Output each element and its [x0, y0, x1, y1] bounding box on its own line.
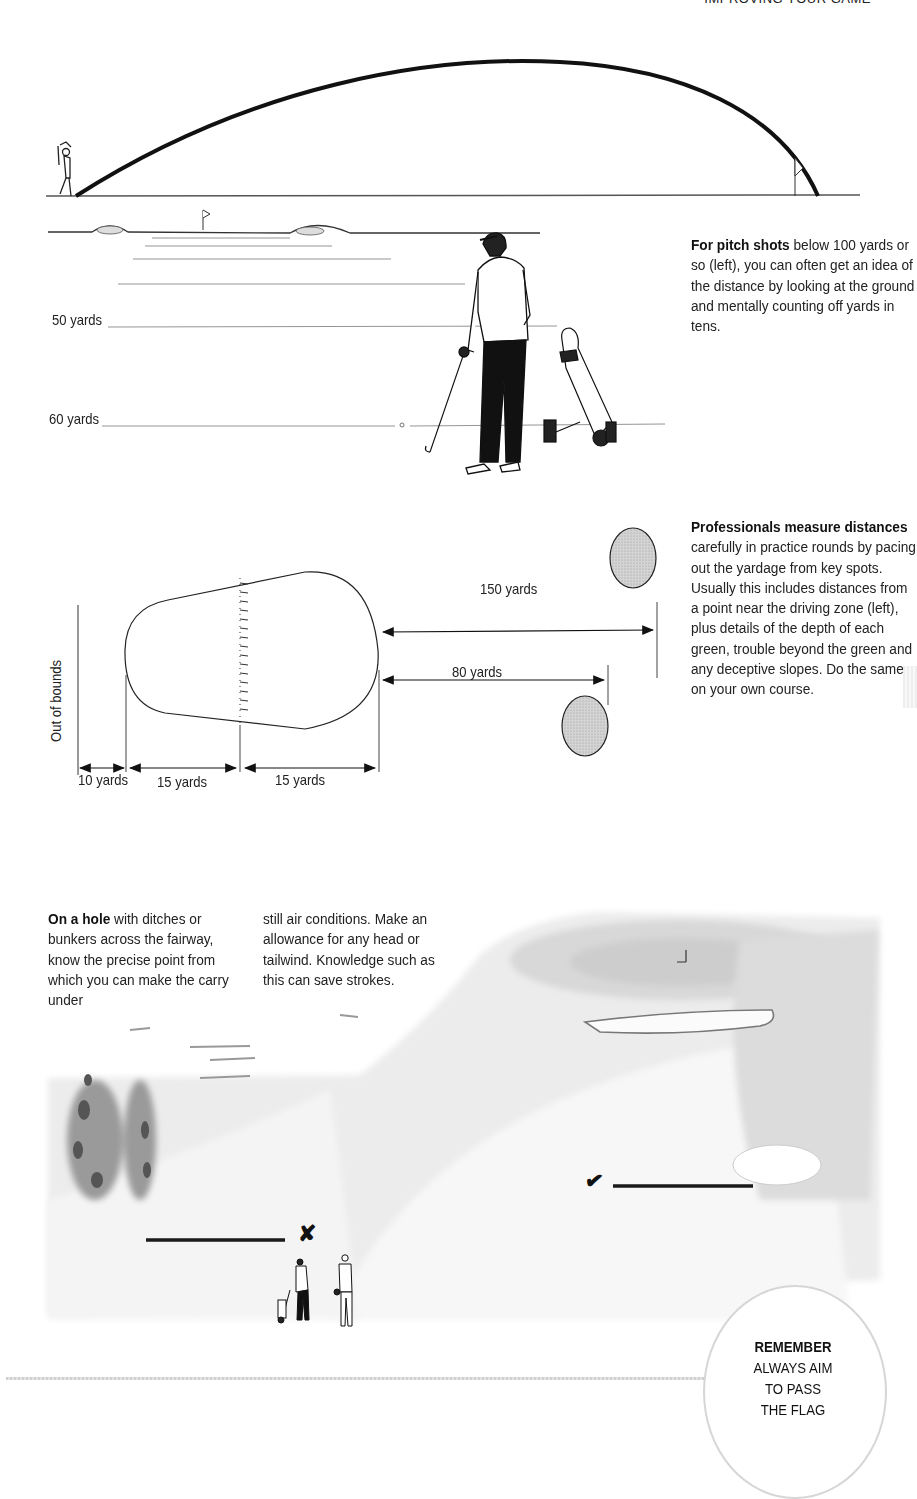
label-60-yards: 60 yards [49, 411, 99, 427]
cross-icon: ✘ [298, 1221, 316, 1247]
page-edge-tab [903, 666, 917, 708]
label-out-of-bounds: Out of bounds [48, 660, 64, 742]
label-80-yards: 80 yards [452, 664, 502, 680]
far-green-shape [610, 528, 656, 588]
remember-line-1: ALWAYS AIM [714, 1357, 872, 1378]
golfer-icon [426, 233, 531, 474]
check-icon: ✔ [583, 1167, 604, 1195]
caption-pitch-shots-lead: For pitch shots [691, 236, 790, 253]
bottom-rule [6, 1377, 706, 1380]
caption-hole-col1: On a hole with ditches or bunkers across… [48, 909, 237, 1010]
caption-pitch-shots: For pitch shots below 100 yards or so (l… [691, 235, 916, 336]
remember-title: REMEMBER [714, 1336, 872, 1357]
bushes-icon [67, 1080, 156, 1200]
caption-professionals-lead: Professionals measure distances [691, 518, 908, 535]
label-15-yards-front: 15 yards [157, 774, 207, 790]
remember-line-2: TO PASS [714, 1378, 872, 1399]
caption-hole-lead: On a hole [48, 910, 110, 927]
caption-hole-col2: still air conditions. Make an allowance … [263, 909, 439, 990]
caption-professionals: Professionals measure distances carefull… [691, 517, 916, 700]
golfer-small-icon [58, 142, 71, 196]
caption-professionals-body: carefully in practice rounds by pacing o… [691, 538, 916, 697]
golf-trolley-icon [544, 328, 616, 446]
trajectory-figure [0, 0, 917, 210]
remember-line-3: THE FLAG [714, 1399, 872, 1420]
label-15-yards-back: 15 yards [275, 772, 325, 788]
label-150-yards: 150 yards [480, 581, 537, 597]
label-50-yards: 50 yards [52, 312, 102, 328]
remember-text: REMEMBER ALWAYS AIM TO PASS THE FLAG [714, 1336, 872, 1420]
near-green-shape [562, 696, 608, 756]
label-10-yards: 10 yards [78, 772, 128, 788]
trajectory-illustration [0, 0, 917, 210]
